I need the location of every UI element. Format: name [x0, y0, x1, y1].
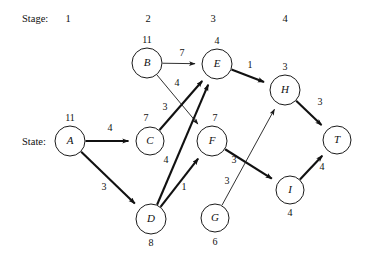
node-value-H: 3: [283, 61, 288, 72]
stage-number-4: 4: [282, 13, 288, 24]
node-label-H: H: [280, 83, 290, 95]
edge-weight-F-I: 3: [232, 154, 237, 165]
edge-weight-B-F: 4: [175, 77, 180, 88]
edge-weight-D-F: 1: [182, 181, 187, 192]
stage-numbers: 1234: [65, 13, 288, 24]
edge-weight-A-C: 4: [108, 122, 113, 133]
edge-E-H: [231, 70, 264, 82]
node-value-C: 7: [144, 112, 149, 123]
node-I: I4: [276, 176, 304, 218]
edge-weight-E-H: 1: [248, 59, 253, 70]
node-G: G6: [201, 204, 229, 247]
edge-weight-I-T: 4: [320, 161, 325, 172]
state-axis-label: State:: [22, 136, 46, 147]
stage-number-1: 1: [65, 13, 70, 24]
node-value-F: 7: [213, 112, 218, 123]
node-label-G: G: [211, 211, 219, 223]
edge-weight-C-E: 3: [163, 101, 168, 112]
node-label-A: A: [66, 134, 74, 146]
edge-G-H: [222, 109, 274, 205]
node-E: E4: [202, 35, 232, 79]
node-label-T: T: [334, 133, 341, 145]
node-D: D8: [136, 204, 166, 248]
diagram-canvas: 437434113334 A11B11C7D8E4F7G6H3I4T Stage…: [0, 0, 368, 256]
node-A: A11: [55, 112, 85, 156]
node-B: B11: [132, 34, 162, 78]
edge-weight-D-E: 4: [164, 154, 169, 165]
node-label-B: B: [144, 56, 151, 68]
node-value-A: 11: [65, 112, 75, 123]
node-value-B: 11: [142, 34, 152, 45]
node-label-F: F: [208, 134, 216, 146]
node-value-G: 6: [213, 236, 218, 247]
node-value-E: 4: [215, 35, 220, 46]
edge-weight-B-E: 7: [180, 47, 185, 58]
node-label-D: D: [146, 212, 155, 224]
stage-axis-label: Stage:: [22, 13, 48, 24]
node-value-D: 8: [149, 237, 154, 248]
edge-weight-A-D: 3: [102, 181, 107, 192]
node-label-C: C: [146, 134, 154, 146]
node-label-E: E: [213, 57, 221, 69]
stage-number-3: 3: [210, 13, 215, 24]
node-C: C7: [136, 112, 164, 155]
edge-weight-G-H: 3: [225, 175, 230, 186]
edge-A-D: [81, 152, 135, 204]
node-H: H3: [270, 61, 300, 105]
edge-weight-H-T: 3: [318, 96, 323, 107]
node-T: T: [323, 126, 351, 154]
network-diagram: 437434113334 A11B11C7D8E4F7G6H3I4T Stage…: [0, 0, 368, 256]
node-F: F7: [197, 112, 227, 156]
stage-number-2: 2: [145, 13, 150, 24]
node-value-I: 4: [288, 207, 293, 218]
